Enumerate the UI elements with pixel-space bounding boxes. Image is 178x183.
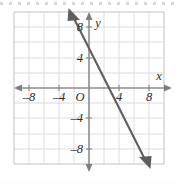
x-tick-label--8: –8: [22, 90, 36, 104]
scan-artifact-dots: [0, 2, 178, 5]
x-axis-label: x: [155, 69, 162, 83]
y-axis-arrow-down: [86, 164, 93, 172]
x-tick-label-4: 4: [116, 90, 122, 104]
origin-label: O: [75, 90, 84, 104]
coordinate-plane-figure: –8 –4 4 8 8 4 –4 –8 O x y: [0, 0, 178, 183]
graph-canvas: –8 –4 4 8 8 4 –4 –8 O x y: [0, 0, 178, 183]
y-axis-label: y: [93, 16, 101, 30]
scan-edge-bottom: [0, 179, 178, 183]
y-tick-label-4: 4: [77, 51, 83, 65]
y-tick-label--8: –8: [70, 142, 84, 156]
x-axis-arrow-right: [164, 85, 172, 92]
y-tick-label-8: 8: [77, 20, 84, 34]
x-tick-label--4: –4: [52, 90, 66, 104]
x-tick-label-8: 8: [146, 90, 153, 104]
y-tick-label--4: –4: [70, 111, 84, 125]
